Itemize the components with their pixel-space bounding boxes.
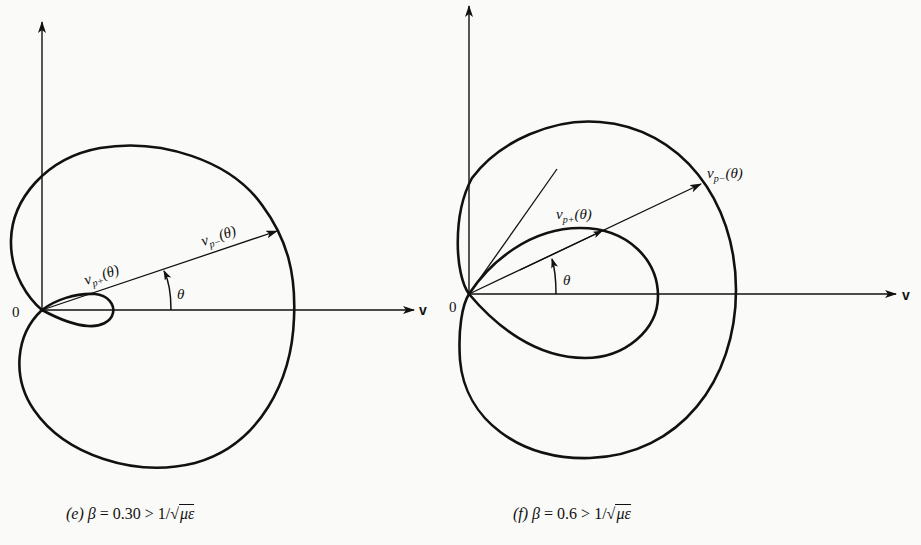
- angle-arc-f: [552, 259, 556, 294]
- figure-f: 0 v θ vp+(θ) vp−(θ): [449, 6, 910, 458]
- svg-text:vp−(θ): vp−(θ): [199, 223, 239, 252]
- origin-label-e: 0: [12, 304, 20, 320]
- inner-vector-label-f: vp+(θ): [556, 206, 592, 225]
- inner-vector-arrow-f: [520, 231, 602, 270]
- vector-arrow-e: [42, 231, 277, 310]
- limit-angle-line-f: [469, 169, 557, 294]
- caption-e-beta: β: [88, 505, 96, 522]
- figure-e: 0 v θ vp+(θ) vp−(θ): [11, 22, 427, 468]
- inner-vector-label-e: vp+(θ): [82, 262, 122, 291]
- caption-f-beta: β: [532, 505, 540, 522]
- angle-label-f: θ: [563, 272, 571, 288]
- caption-f-rhs-prefix: 1/: [594, 505, 606, 522]
- inner-loop-f: [469, 228, 658, 358]
- angle-label-e: θ: [177, 286, 185, 302]
- caption-e-equals: =: [100, 505, 109, 522]
- caption-e-value: 0.30: [113, 505, 141, 522]
- diagram-canvas: 0 v θ vp+(θ) vp−(θ) 0 v θ vp+(θ) vp−(θ): [0, 0, 921, 545]
- axis-label-f: v: [902, 287, 910, 303]
- caption-f-label: (f): [513, 505, 528, 522]
- outer-curve-f: [458, 122, 736, 459]
- outer-vector-label-f: vp−(θ): [707, 165, 743, 184]
- caption-e-radicand: με: [179, 504, 194, 522]
- caption-f: (f) β = 0.6 > 1/√με: [513, 505, 631, 523]
- origin-label-f: 0: [449, 299, 457, 315]
- caption-f-value: 0.6: [557, 505, 577, 522]
- caption-e-label: (e): [66, 505, 84, 522]
- caption-e-relation: >: [145, 505, 154, 522]
- svg-text:vp+(θ): vp+(θ): [82, 262, 122, 291]
- caption-e: (e) β = 0.30 > 1/√με: [66, 505, 194, 523]
- caption-f-radicand: με: [615, 504, 630, 522]
- caption-f-equals: =: [544, 505, 553, 522]
- axis-label-e: v: [419, 302, 427, 318]
- caption-f-relation: >: [581, 505, 590, 522]
- caption-e-rhs-prefix: 1/: [158, 505, 170, 522]
- outer-vector-label-e: vp−(θ): [199, 223, 239, 252]
- caption-e-radical: √: [170, 505, 179, 522]
- angle-arc-e: [164, 271, 171, 310]
